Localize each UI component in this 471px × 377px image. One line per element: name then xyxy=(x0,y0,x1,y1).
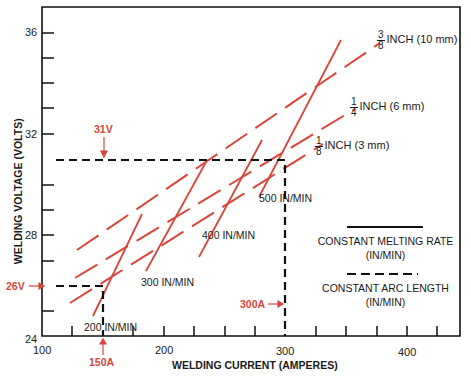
label-300-in-min: 300 IN/MIN xyxy=(141,277,194,288)
y-tick-28: 28 xyxy=(25,230,37,241)
legend-dashed-sublabel: (IN/MIN) xyxy=(313,297,458,308)
wfs-line-200 xyxy=(93,214,142,316)
melting-rate-lines xyxy=(93,40,341,316)
annotation-300a: 300A xyxy=(240,299,265,310)
legend-solid-sublabel: (IN/MIN) xyxy=(313,250,458,261)
label-500-in-min: 500 IN/MIN xyxy=(259,193,312,204)
label-200-in-min: 200 IN/MIN xyxy=(84,322,137,333)
wfs-line-500 xyxy=(259,40,341,197)
chart-plot xyxy=(0,0,471,377)
annotation-arrows xyxy=(29,137,283,355)
annotation-150a: 150A xyxy=(89,357,114,368)
label-arc-1-8: 18INCH (3 mm) xyxy=(315,136,389,157)
y-axis-title: WELDING VOLTAGE (VOLTS) xyxy=(13,116,24,266)
wfs-line-300 xyxy=(146,162,206,271)
y-tick-36: 36 xyxy=(25,27,37,38)
y-ticks xyxy=(42,33,54,311)
arc-length-lines xyxy=(70,43,380,303)
legend-dashed-label: CONSTANT ARC LENGTH xyxy=(313,283,458,294)
x-axis-title: WELDING CURRENT (AMPERES) xyxy=(172,360,338,371)
y-tick-32: 32 xyxy=(25,129,37,140)
x-tick-100: 100 xyxy=(33,345,51,356)
x-tick-400: 400 xyxy=(398,347,416,358)
welding-chart: 36 32 28 24 100 200 300 400 WELDING CURR… xyxy=(0,0,471,377)
annotation-26v: 26V xyxy=(6,281,25,292)
label-arc-1-4: 14INCH (6 mm) xyxy=(350,97,424,118)
legend-solid-label: CONSTANT MELTING RATE xyxy=(313,236,458,247)
x-tick-300: 300 xyxy=(276,346,294,357)
annotation-31v: 31V xyxy=(94,124,113,135)
label-400-in-min: 400 IN/MIN xyxy=(202,230,255,241)
x-tick-200: 200 xyxy=(155,345,173,356)
label-arc-3-8: 38INCH (10 mm) xyxy=(377,30,457,51)
